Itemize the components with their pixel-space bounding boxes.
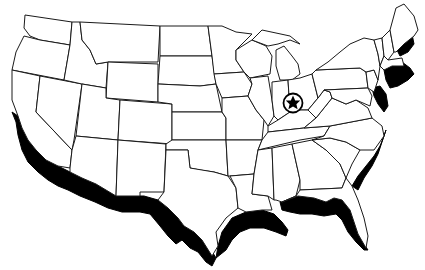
us-map xyxy=(0,0,425,270)
states xyxy=(12,4,418,256)
star-in-circle-icon xyxy=(284,94,303,113)
